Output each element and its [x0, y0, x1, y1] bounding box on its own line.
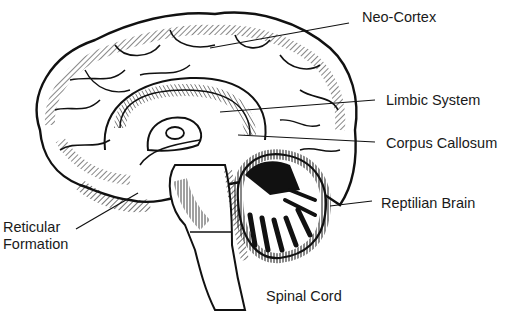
label-spinal-cord: Spinal Cord [266, 288, 342, 305]
label-neo-cortex: Neo-Cortex [362, 9, 436, 26]
label-reticular-formation: Reticular Formation [3, 219, 93, 253]
label-reticular-line2: Formation [3, 236, 93, 253]
brain-illustration [0, 0, 510, 318]
label-limbic-system: Limbic System [386, 92, 480, 109]
label-corpus-callosum: Corpus Callosum [386, 135, 497, 152]
label-reptilian-brain: Reptilian Brain [381, 195, 475, 212]
brain-diagram: Neo-Cortex Limbic System Corpus Callosum… [0, 0, 510, 318]
cerebellum [238, 154, 326, 258]
label-reticular-line1: Reticular [3, 219, 93, 236]
